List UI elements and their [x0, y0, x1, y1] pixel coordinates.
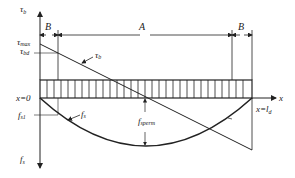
left-b-label: B	[45, 21, 51, 32]
tau-b-curve-label: τb	[95, 50, 101, 60]
a-label: A	[138, 21, 146, 32]
fs-axis-label: fs	[20, 154, 26, 165]
x-start-label: x=0	[15, 93, 31, 103]
right-b-label: B	[238, 21, 244, 32]
fs-pointer	[68, 115, 80, 120]
tau-b-line	[40, 44, 252, 150]
fs-curve-label: fs	[81, 109, 87, 119]
fsperm-label: fsperm	[138, 116, 156, 126]
bond-stress-diagram: τb fs x B A B τmax τbd τb x=0 x=ld fs1 f…	[0, 0, 295, 178]
tau-axis-label: τb	[20, 4, 26, 15]
fs1-label: fs1	[18, 110, 26, 120]
beam	[40, 80, 252, 98]
minus-mark	[228, 118, 232, 119]
x-axis-label: x	[278, 93, 283, 103]
tau-bd-label: τbd	[20, 46, 30, 56]
x-end-label: x=ld	[255, 104, 273, 115]
tau-b-pointer	[82, 57, 93, 63]
